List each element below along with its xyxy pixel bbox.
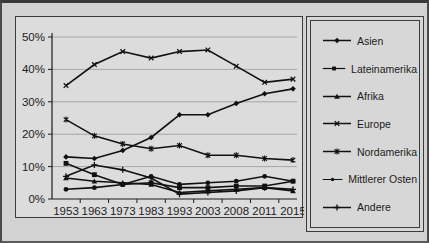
x-tick-label: 1953 — [53, 205, 79, 217]
x-tick-label: 2003 — [195, 205, 221, 217]
legend-label-nordamerika: Nordamerika — [357, 146, 417, 158]
figure-frame: 0%10%20%30%40%50%19531963197319831993200… — [0, 0, 429, 243]
legend-marker-nordamerika — [322, 147, 352, 156]
y-tick-label: 20% — [22, 128, 45, 140]
legend-marker-andere — [322, 203, 352, 212]
x-tick-label: 2011 — [252, 205, 277, 217]
legend-item-lateinamerika: Lateinamerika — [322, 63, 417, 75]
legend-item-asien: Asien — [322, 35, 417, 47]
legend-box: AsienLateinamerikaAfrikaEuropeNordamerik… — [306, 16, 424, 232]
plot-svg: 0%10%20%30%40%50%19531963197319831993200… — [16, 17, 304, 219]
legend-label-lateinamerika: Lateinamerika — [351, 63, 417, 75]
x-tick-label: 2008 — [223, 205, 249, 217]
legend-marker-europe — [322, 119, 352, 128]
legend-inner: AsienLateinamerikaAfrikaEuropeNordamerik… — [310, 20, 420, 228]
x-tick-label: 1993 — [167, 205, 193, 217]
legend-item-andere: Andere — [322, 201, 417, 213]
y-tick-label: 50% — [22, 31, 45, 43]
x-tick-label: 1983 — [138, 205, 164, 217]
x-tick-label: 2015 — [280, 205, 304, 217]
series-europe — [64, 48, 296, 88]
legend-item-nordamerika: Nordamerika — [322, 146, 417, 158]
legend-label-andere: Andere — [357, 201, 391, 213]
legend-label-europe: Europe — [357, 118, 391, 130]
legend-item-europe: Europe — [322, 118, 417, 130]
series-asien — [63, 86, 296, 161]
x-tick-label: 1963 — [82, 205, 108, 217]
legend-label-asien: Asien — [357, 35, 383, 47]
x-tick-label: 1973 — [110, 205, 136, 217]
chart-area: 0%10%20%30%40%50%19531963197319831993200… — [15, 16, 303, 218]
legend-item-afrika: Afrika — [322, 90, 417, 102]
legend-marker-lateinamerika — [322, 64, 346, 73]
legend-label-afrika: Afrika — [357, 90, 384, 102]
y-tick-label: 0% — [28, 193, 45, 205]
legend-marker-asien — [322, 36, 352, 45]
series-andere — [63, 162, 296, 197]
y-tick-label: 10% — [22, 161, 45, 173]
legend-item-mittlerer-osten: Mittlerer Osten — [322, 173, 417, 185]
legend-marker-afrika — [322, 92, 352, 101]
series-nordamerika — [64, 117, 296, 163]
y-tick-label: 40% — [22, 63, 45, 75]
y-tick-label: 30% — [22, 96, 45, 108]
legend-label-mittlerer-osten: Mittlerer Osten — [348, 173, 417, 185]
legend-marker-mittlerer-osten — [322, 175, 343, 184]
